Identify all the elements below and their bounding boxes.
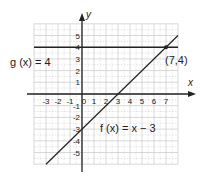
y-axis-label: y [85, 9, 92, 20]
y-tick-label: -5 [73, 149, 81, 158]
x-tick-label: 4 [128, 97, 133, 106]
y-tick-label: 3 [76, 55, 81, 64]
function-graph: -3-2-10123456754321-1-2-3-4-5 x y g (x) … [0, 0, 202, 179]
y-tick-label: -4 [73, 137, 81, 146]
x-tick-label: 7 [164, 97, 169, 106]
x-tick-label: 0 [82, 97, 87, 106]
x-tick-label: 3 [116, 97, 121, 106]
x-axis-arrow-icon [188, 91, 196, 97]
y-axis-arrow-icon [79, 13, 85, 21]
x-tick-label: 5 [140, 97, 145, 106]
y-tick-label: 1 [76, 78, 81, 87]
x-tick-label: -2 [54, 97, 62, 106]
g-function-label: g (x) = 4 [10, 56, 51, 68]
y-tick-label: 2 [76, 67, 81, 76]
x-tick-label: 6 [152, 97, 157, 106]
x-tick-label: -3 [42, 97, 50, 106]
y-tick-label: 5 [76, 32, 81, 41]
y-tick-label: -1 [73, 102, 81, 111]
intersection-point-dot [164, 45, 168, 49]
f-function-label: f (x) = x − 3 [100, 122, 156, 134]
intersection-point-label: (7,4) [165, 54, 188, 66]
y-tick-label: -2 [73, 113, 81, 122]
axes [27, 13, 196, 172]
y-tick-label: -3 [73, 125, 81, 134]
x-axis-label: x [187, 77, 194, 88]
x-tick-label: 1 [92, 97, 97, 106]
